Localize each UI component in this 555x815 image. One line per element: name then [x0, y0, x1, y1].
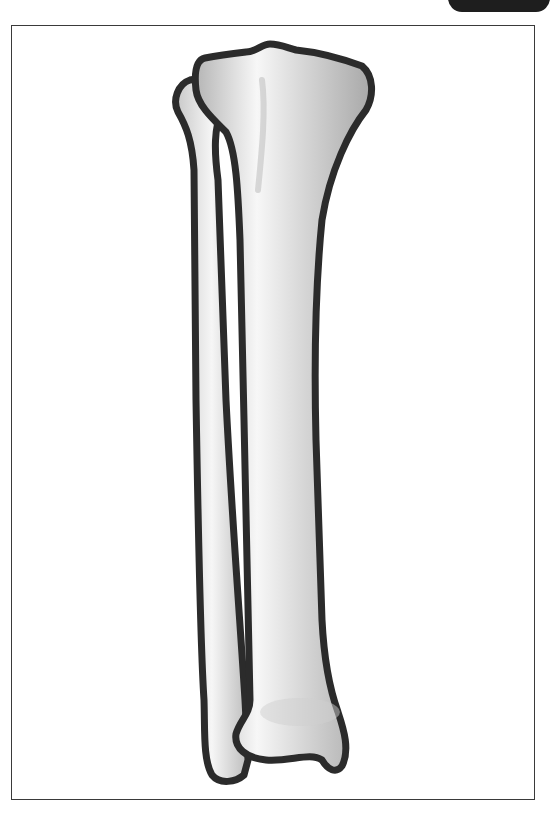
bone-illustration: [0, 0, 555, 815]
